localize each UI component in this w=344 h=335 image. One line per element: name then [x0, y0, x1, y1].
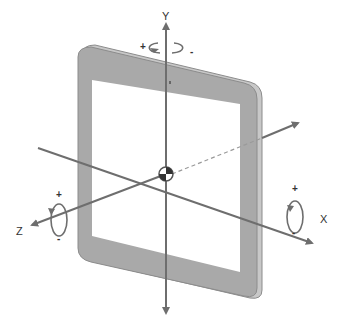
y-axis-label: Y [162, 10, 170, 22]
origin-icon [159, 167, 173, 181]
x-rotation-plus: + [292, 183, 298, 194]
y-rotation-plus: + [140, 41, 146, 52]
x-axis-back [262, 123, 298, 138]
x-axis-label: X [320, 213, 328, 225]
z-rotation-icon [48, 204, 67, 236]
y-rotation-minus: - [190, 46, 193, 57]
z-rotation-plus: + [56, 189, 62, 200]
z-axis-label: Z [16, 225, 23, 237]
camera-icon [169, 81, 171, 84]
x-rotation-minus: - [292, 227, 295, 238]
coordinate-system-diagram: + - Y + - Z + - X [0, 0, 344, 335]
z-rotation-minus: - [57, 233, 60, 244]
